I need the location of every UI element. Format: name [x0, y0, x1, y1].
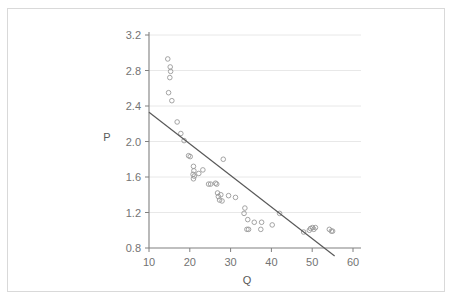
x-tick-label: 60	[347, 256, 359, 268]
data-point	[175, 120, 180, 125]
y-tick-label: 1.2	[126, 207, 141, 219]
data-point	[214, 182, 219, 187]
data-point	[270, 223, 275, 228]
data-point	[252, 220, 257, 225]
x-tick-label: 40	[265, 256, 277, 268]
x-tick-label: 20	[184, 256, 196, 268]
y-tick-label: 2.4	[126, 100, 141, 112]
y-tick-label: 2.8	[126, 65, 141, 77]
data-point-group	[165, 57, 334, 235]
data-point	[233, 195, 238, 200]
x-tick-label: 30	[224, 256, 236, 268]
data-point	[166, 90, 171, 95]
y-axis-label: P	[103, 131, 110, 143]
data-point	[168, 75, 173, 80]
top-clipped-text	[0, 0, 454, 7]
data-point	[191, 164, 196, 169]
x-axis-tick-labels: 102030405060	[143, 248, 359, 268]
chart-page: 0.81.21.62.02.42.83.2 102030405060 P Q	[0, 0, 454, 302]
y-tick-label: 2.0	[126, 136, 141, 148]
scatter-plot: 0.81.21.62.02.42.83.2 102030405060 P Q	[8, 9, 444, 291]
chart-frame: 0.81.21.62.02.42.83.2 102030405060 P Q	[7, 8, 445, 292]
data-point	[196, 171, 201, 176]
data-point	[168, 65, 173, 70]
gridlines	[149, 35, 361, 213]
data-point	[221, 157, 226, 162]
data-point	[259, 220, 264, 225]
x-tick-label: 10	[143, 256, 155, 268]
data-point	[170, 98, 175, 103]
y-tick-label: 0.8	[126, 242, 141, 254]
plot-axes	[149, 32, 361, 248]
data-point	[168, 69, 173, 74]
data-point	[245, 217, 250, 222]
trend-line	[149, 112, 335, 256]
data-point	[165, 57, 170, 62]
data-point	[226, 193, 231, 198]
trend-line-segment	[149, 112, 335, 256]
data-point	[243, 206, 248, 211]
data-point	[201, 168, 206, 173]
data-point	[258, 227, 263, 232]
x-axis-label: Q	[243, 274, 252, 286]
y-tick-label: 1.6	[126, 171, 141, 183]
x-tick-label: 50	[306, 256, 318, 268]
y-axis-tick-labels: 0.81.21.62.02.42.83.2	[126, 29, 149, 254]
y-tick-label: 3.2	[126, 29, 141, 41]
data-point	[242, 211, 247, 216]
